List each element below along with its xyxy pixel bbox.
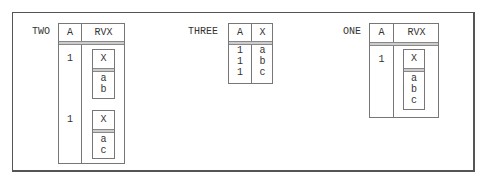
relation-label-two: TWO xyxy=(32,26,50,38)
header-separator xyxy=(59,41,124,45)
column-header-x: X xyxy=(252,27,273,39)
column-header-a: A xyxy=(370,27,393,39)
cell-a-row-2: 1 xyxy=(229,56,251,67)
nested-header-x: X xyxy=(93,53,114,65)
column-header-rvx: RVX xyxy=(394,27,439,39)
column-header-rvx: RVX xyxy=(82,27,125,39)
nested-relation-rvx-row-1: X a b xyxy=(92,49,115,99)
cell-a-row-3: 1 xyxy=(229,67,251,78)
column-header-a: A xyxy=(229,27,251,39)
cell-a-row-1: 1 xyxy=(370,54,393,65)
header-separator xyxy=(370,42,438,46)
nested-header-separator xyxy=(404,68,424,72)
cell-x-row-3: c xyxy=(252,67,273,78)
relation-label-one: ONE xyxy=(343,26,361,38)
cell-a-row-1: 1 xyxy=(59,53,81,64)
cell-a-row-1: 1 xyxy=(229,45,251,56)
relation-label-three: THREE xyxy=(188,26,218,38)
cell-x-row-2: b xyxy=(252,56,273,67)
nested-cell: b xyxy=(404,84,424,95)
column-header-a: A xyxy=(59,27,81,39)
nested-cell: b xyxy=(93,84,114,95)
nested-cell: a xyxy=(93,73,114,84)
nested-cell: c xyxy=(404,95,424,106)
nested-header-separator xyxy=(93,129,114,133)
relation-table-three: A X 1 a 1 b 1 c xyxy=(228,23,273,84)
nested-relation-rvx-row-2: X a c xyxy=(92,110,115,159)
nested-header-x: X xyxy=(93,114,114,126)
relation-table-one: A RVX 1 X a b c xyxy=(369,23,439,118)
cell-x-row-1: a xyxy=(252,45,273,56)
relation-table-two: A RVX 1 X a b 1 X a c xyxy=(58,23,125,164)
nested-relation-rvx-row-1: X a b c xyxy=(403,49,425,110)
nested-cell: a xyxy=(404,73,424,84)
nested-header-separator xyxy=(93,68,114,72)
nested-cell: a xyxy=(93,134,114,145)
nested-header-x: X xyxy=(404,53,424,65)
nested-cell: c xyxy=(93,145,114,156)
cell-a-row-2: 1 xyxy=(59,114,81,125)
